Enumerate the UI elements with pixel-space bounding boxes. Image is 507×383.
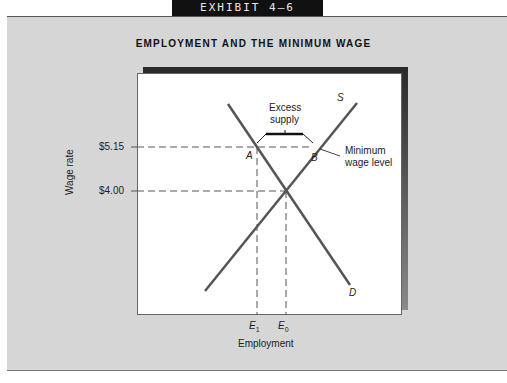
- min-wage-pointer: [320, 149, 340, 156]
- excess-supply-bracket: [257, 134, 313, 143]
- demand-label: D: [349, 287, 356, 298]
- excess-label-1: Excess: [269, 102, 301, 113]
- y-axis-label: Wage rate: [64, 149, 75, 195]
- x-tick-e1: E1: [249, 320, 260, 333]
- point-a-label: A: [246, 150, 253, 161]
- minwage-label-1: Minimum: [345, 145, 386, 156]
- x-tick-e0: E0: [278, 320, 289, 333]
- demand-curve: [228, 104, 350, 285]
- minwage-label-2: wage level: [345, 157, 392, 168]
- supply-label: S: [337, 92, 344, 103]
- x-axis-label: Employment: [238, 338, 294, 349]
- point-b-label: B: [311, 152, 318, 163]
- excess-label-2: supply: [270, 114, 299, 125]
- y-tick-515: $5.15: [99, 141, 124, 152]
- y-tick-400: $4.00: [99, 185, 124, 196]
